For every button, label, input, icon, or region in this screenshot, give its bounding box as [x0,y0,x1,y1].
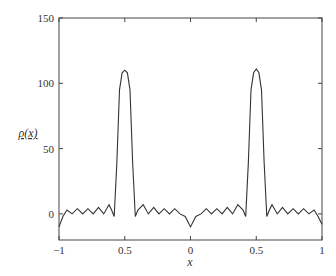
y-tick-label: 0 [49,208,55,220]
y-tick-label: 100 [38,77,55,89]
x-axis-label: x [186,255,193,269]
x-tick-label: 1 [319,244,325,256]
x-tick-label: −1 [53,244,65,256]
y-tick-label: 150 [38,12,55,24]
chart: −10.500.51050100150 x ρ(x) [0,0,336,276]
x-tick-label: 0.5 [118,244,132,256]
rho-line [59,69,322,227]
y-axis-label: ρ(x) [17,126,37,140]
x-tick-label: 0.5 [249,244,263,256]
y-tick-label: 50 [43,143,55,155]
tick-labels: −10.500.51050100150 [38,12,325,256]
